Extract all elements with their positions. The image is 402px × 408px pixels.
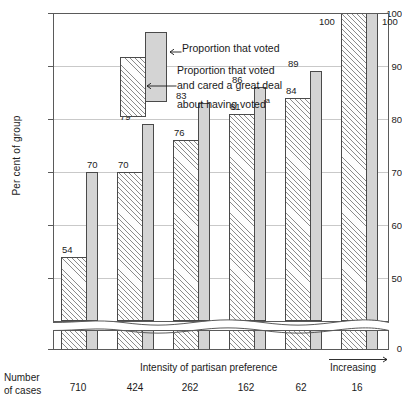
bar-group2-voted: [142, 124, 154, 321]
stub-bar-group1-voted: [86, 331, 98, 349]
value-label-group1-voted-cared: 54: [62, 245, 73, 255]
value-label-group6-voted-cared: 100: [319, 17, 335, 27]
legend-label-voted-cared-line2: and cared a great deal: [177, 78, 282, 93]
number-of-cases-label-line1: Number: [4, 372, 41, 385]
legend-leader-arrow-voted: [168, 48, 182, 56]
stub-bar-group3-voted: [198, 331, 210, 349]
gridline-80: [54, 119, 388, 120]
value-label-group3-voted-cared: 76: [174, 128, 185, 138]
number-of-cases-label: Number of cases: [4, 372, 41, 397]
legend: Proportion that voted Proportion that vo…: [120, 30, 360, 116]
bar-group1-voted: [86, 172, 98, 321]
value-label-group6-voted: 100: [382, 17, 398, 27]
bar-group3-voted: [198, 103, 210, 321]
number-of-cases-value-1: 710: [58, 382, 98, 393]
stub-bar-group5-voted-cared: [285, 331, 311, 349]
number-of-cases-label-line2: of cases: [4, 385, 41, 398]
value-label-group2-voted-cared: 70: [118, 160, 129, 170]
stub-bar-group2-voted: [142, 331, 154, 349]
bar-group1-voted-cared: [61, 257, 87, 321]
legend-leader-arrow-voted-cared: [145, 82, 177, 90]
plot-area: 70 54 79 70 83 76 86 81 89 84 100 100: [53, 13, 389, 322]
legend-swatch-voted-cared: [120, 57, 146, 117]
bar-group5-voted-cared: [285, 98, 311, 321]
legend-label-voted-cared-line3-text: about having voted: [177, 98, 266, 110]
number-of-cases-value-6: 16: [337, 382, 377, 393]
legend-label-voted-cared-line3: about having voteda: [177, 93, 282, 112]
stub-bar-group4-voted-cared: [229, 331, 255, 349]
stub-bar-group1-voted-cared: [61, 331, 87, 349]
increasing-label: Increasing: [330, 362, 376, 373]
bar-group2-voted-cared: [117, 172, 143, 321]
axis-stub-area: [53, 330, 389, 350]
stub-bar-group6-voted: [366, 331, 378, 349]
gridline-70: [54, 172, 388, 173]
gridline-50: [54, 278, 388, 279]
legend-label-voted-cared-line1: Proportion that voted: [177, 63, 282, 78]
value-label-group1-voted: 70: [87, 160, 98, 170]
stub-bar-group4-voted: [254, 331, 266, 349]
stub-bar-group6-voted-cared: [341, 331, 367, 349]
y-axis-title: Per cent of group: [11, 96, 22, 216]
bar-group4-voted: [254, 87, 266, 321]
stub-bar-group5-voted: [310, 331, 322, 349]
number-of-cases-value-4: 162: [226, 382, 266, 393]
stub-bar-group2-voted-cared: [117, 331, 143, 349]
bar-group4-voted-cared: [229, 114, 255, 321]
legend-swatch-voted: [145, 32, 167, 102]
bar-group3-voted-cared: [173, 140, 199, 321]
legend-label-voted: Proportion that voted: [182, 42, 279, 54]
legend-label-voted-cared: Proportion that voted and cared a great …: [177, 63, 282, 112]
number-of-cases-value-3: 262: [170, 382, 210, 393]
number-of-cases-value-2: 424: [115, 382, 155, 393]
footnote-marker: a: [266, 96, 270, 105]
gridline-60: [54, 225, 388, 226]
x-axis-title: Intensity of partisan preference: [140, 362, 277, 373]
stub-bar-group3-voted-cared: [173, 331, 199, 349]
number-of-cases-value-5: 62: [281, 382, 321, 393]
chart-root: 100 90 80 70 60 50 0 Per cent of group 7…: [0, 0, 402, 408]
bar-group6-voted: [366, 14, 378, 321]
